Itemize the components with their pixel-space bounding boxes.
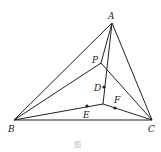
point-F-dot [113, 106, 116, 109]
segment-AC [112, 23, 152, 120]
label-D: D [93, 83, 101, 93]
label-C: C [148, 124, 155, 134]
label-F: F [113, 95, 121, 105]
figure-caption: 图 [74, 141, 81, 149]
point-E-dot [85, 104, 88, 107]
label-P: P [91, 55, 99, 65]
label-B: B [7, 124, 15, 134]
segment-AO [103, 23, 112, 104]
point-D-dot [102, 85, 105, 88]
label-A: A [107, 11, 115, 21]
geometry-diagram: A B C P D E F 图 [0, 0, 161, 152]
label-E: E [82, 110, 90, 120]
